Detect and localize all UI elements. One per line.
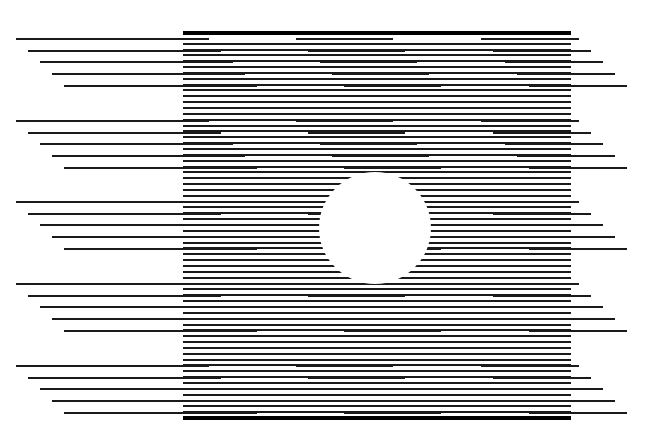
- offset-line-middle: [296, 120, 393, 122]
- frame-line: [183, 288, 571, 290]
- offset-line-right: [529, 167, 627, 169]
- offset-line-right: [529, 85, 627, 87]
- frame-line: [183, 335, 571, 337]
- offset-line-middle: [344, 167, 441, 169]
- offset-line-left: [40, 61, 233, 63]
- offset-line-middle: [308, 295, 405, 297]
- frame-line: [183, 101, 571, 103]
- frame-line: [183, 95, 571, 97]
- offset-line-middle: [332, 155, 429, 157]
- offset-line-left: [16, 120, 209, 122]
- offset-line-middle: [320, 143, 417, 145]
- offset-line-left: [28, 132, 221, 134]
- offset-line-right: [493, 377, 591, 379]
- offset-line-left: [16, 283, 209, 285]
- offset-line-right: [529, 412, 627, 414]
- offset-line-left: [64, 248, 257, 250]
- offset-line-middle: [308, 377, 405, 379]
- offset-line-left: [64, 412, 257, 414]
- frame-line: [183, 107, 571, 109]
- frame-line: [183, 89, 571, 91]
- offset-line-middle: [308, 50, 405, 52]
- frame-line: [183, 113, 571, 115]
- frame-line: [183, 160, 571, 162]
- offset-line-left: [64, 330, 257, 332]
- offset-line-left: [52, 400, 245, 402]
- offset-line-right: [529, 330, 627, 332]
- frame-line: [183, 341, 571, 343]
- central-circle: [319, 172, 431, 284]
- offset-line-left: [40, 224, 233, 226]
- offset-line-middle: [320, 61, 417, 63]
- frame-line: [183, 382, 571, 384]
- offset-line-right: [493, 295, 591, 297]
- offset-line-left: [28, 213, 221, 215]
- offset-line-right: [505, 143, 603, 145]
- offset-line-right: [517, 318, 615, 320]
- frame-line: [183, 324, 571, 326]
- offset-line-middle: [344, 330, 441, 332]
- offset-line-left: [64, 167, 257, 169]
- frame-line: [183, 78, 571, 80]
- offset-line-right: [517, 400, 615, 402]
- offset-line-middle: [332, 73, 429, 75]
- offset-line-left: [52, 73, 245, 75]
- offset-line-middle: [344, 412, 441, 414]
- frame-line: [183, 394, 571, 396]
- frame-line: [183, 54, 571, 56]
- frame-bottom-bar: [183, 416, 571, 420]
- frame-line: [183, 125, 571, 127]
- offset-line-right: [505, 388, 603, 390]
- offset-line-right: [493, 50, 591, 52]
- offset-line-left: [40, 306, 233, 308]
- offset-line-right: [493, 213, 591, 215]
- offset-line-right: [529, 248, 627, 250]
- offset-line-right: [481, 120, 579, 122]
- offset-line-left: [16, 201, 209, 203]
- offset-line-left: [16, 38, 209, 40]
- frame-line: [183, 300, 571, 302]
- offset-line-right: [505, 224, 603, 226]
- frame-line: [183, 347, 571, 349]
- offset-line-middle: [344, 85, 441, 87]
- frame-line: [183, 43, 571, 45]
- frame-line: [183, 148, 571, 150]
- frame-line: [183, 359, 571, 361]
- offset-line-right: [481, 365, 579, 367]
- offset-line-middle: [332, 400, 429, 402]
- offset-line-middle: [320, 306, 417, 308]
- offset-line-right: [517, 155, 615, 157]
- frame-line: [183, 312, 571, 314]
- frame-line: [183, 353, 571, 355]
- offset-line-middle: [332, 318, 429, 320]
- offset-line-left: [28, 377, 221, 379]
- offset-line-left: [40, 388, 233, 390]
- offset-line-middle: [308, 132, 405, 134]
- offset-line-middle: [320, 388, 417, 390]
- offset-line-right: [481, 38, 579, 40]
- offset-line-left: [52, 155, 245, 157]
- offset-line-right: [481, 283, 579, 285]
- offset-line-right: [517, 73, 615, 75]
- offset-line-right: [517, 236, 615, 238]
- frame-line: [183, 405, 571, 407]
- offset-line-left: [64, 85, 257, 87]
- offset-line-right: [505, 306, 603, 308]
- frame-line: [183, 66, 571, 68]
- offset-line-left: [40, 143, 233, 145]
- illusion-figure: Horizontal line optical illusion with ce…: [0, 0, 647, 439]
- frame-line: [183, 370, 571, 372]
- offset-line-left: [28, 295, 221, 297]
- offset-line-right: [505, 61, 603, 63]
- offset-line-right: [493, 132, 591, 134]
- frame-line: [183, 136, 571, 138]
- offset-line-right: [481, 201, 579, 203]
- offset-line-left: [16, 365, 209, 367]
- offset-line-middle: [296, 365, 393, 367]
- offset-line-left: [52, 236, 245, 238]
- offset-line-left: [28, 50, 221, 52]
- offset-line-middle: [296, 38, 393, 40]
- offset-line-left: [52, 318, 245, 320]
- frame-top-bar: [183, 31, 571, 35]
